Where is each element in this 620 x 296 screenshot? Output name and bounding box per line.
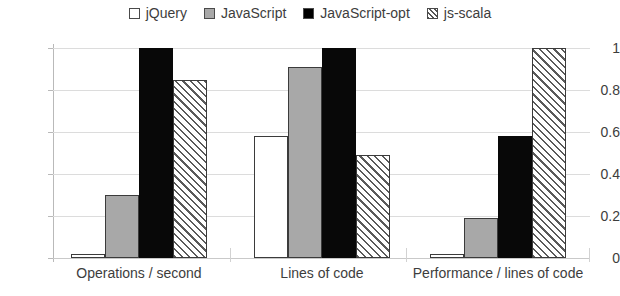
bar[interactable]	[71, 254, 105, 258]
bar[interactable]	[356, 155, 390, 258]
group-separator	[230, 248, 231, 262]
y-axis-tick	[48, 132, 53, 133]
plot-area: 00.20.40.60.81 Operations / secondLines …	[0, 0, 620, 296]
bar[interactable]	[464, 218, 498, 258]
bar[interactable]	[498, 136, 532, 258]
bar[interactable]	[139, 48, 173, 258]
bar[interactable]	[254, 136, 288, 258]
bar[interactable]	[105, 195, 139, 258]
bar-chart: jQuery JavaScript JavaScript-opt js-scal…	[0, 0, 620, 296]
y-axis-tick	[48, 48, 53, 49]
bar-group	[254, 48, 390, 258]
bar[interactable]	[532, 48, 566, 258]
bar[interactable]	[430, 254, 464, 258]
bar-group	[71, 48, 207, 258]
y-axis-tick	[48, 216, 53, 217]
gridline	[53, 258, 590, 259]
bars-layer	[54, 48, 590, 258]
y-axis-tick	[48, 90, 53, 91]
bar[interactable]	[288, 67, 322, 258]
y-axis-tick	[48, 174, 53, 175]
bar[interactable]	[173, 80, 207, 259]
bar-group	[430, 48, 566, 258]
bar[interactable]	[322, 48, 356, 258]
group-separator	[589, 248, 590, 262]
y-axis-tick	[48, 258, 53, 259]
x-axis-tick-label: Performance / lines of code	[388, 266, 608, 281]
group-separator	[406, 248, 407, 262]
